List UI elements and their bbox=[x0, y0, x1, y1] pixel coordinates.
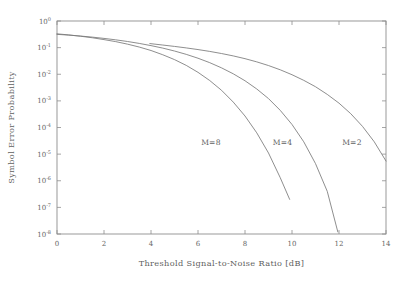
x-tick-label: 4 bbox=[149, 240, 154, 248]
x-tick-label: 8 bbox=[243, 240, 247, 248]
data-curves bbox=[57, 34, 386, 232]
x-tick-label: 10 bbox=[288, 240, 297, 248]
symbol-error-probability-chart: 02468101214 10010-110-210-310-410-510-61… bbox=[0, 0, 400, 282]
y-tick-label: 100 bbox=[39, 16, 51, 26]
x-axis-tick-labels: 02468101214 bbox=[55, 240, 391, 248]
x-axis-ticks bbox=[57, 21, 386, 234]
x-tick-label: 0 bbox=[55, 240, 59, 248]
x-tick-label: 2 bbox=[102, 240, 106, 248]
y-tick-label: 10-3 bbox=[37, 95, 51, 105]
y-tick-label: 10-2 bbox=[37, 69, 51, 79]
y-tick-label: 10-8 bbox=[37, 229, 51, 239]
y-tick-label: 10-7 bbox=[37, 202, 51, 212]
y-axis-ticks bbox=[57, 21, 386, 234]
y-axis-title: Symbol Error Probability bbox=[6, 71, 16, 184]
series-annotations: M=8M=4M=2 bbox=[201, 138, 362, 147]
y-tick-label: 10-5 bbox=[37, 149, 51, 159]
y-axis-tick-labels: 10010-110-210-310-410-510-610-710-8 bbox=[37, 16, 51, 239]
y-tick-label: 10-6 bbox=[37, 175, 51, 185]
chart-figure: 02468101214 10010-110-210-310-410-510-61… bbox=[0, 0, 400, 282]
series-label-m2: M=2 bbox=[342, 138, 362, 147]
series-label-m4: M=4 bbox=[273, 138, 293, 147]
x-axis-title: Threshold Signal-to-Noise Ratio [dB] bbox=[139, 258, 305, 268]
x-tick-label: 12 bbox=[335, 240, 344, 248]
series-label-m8: M=8 bbox=[201, 138, 221, 147]
y-tick-label: 10-4 bbox=[37, 122, 51, 132]
curve-m8 bbox=[57, 34, 290, 200]
plot-frame bbox=[57, 21, 386, 234]
y-tick-label: 10-1 bbox=[37, 42, 51, 52]
x-tick-label: 6 bbox=[196, 240, 201, 248]
curve-m4 bbox=[57, 34, 338, 232]
x-tick-label: 14 bbox=[382, 240, 391, 248]
